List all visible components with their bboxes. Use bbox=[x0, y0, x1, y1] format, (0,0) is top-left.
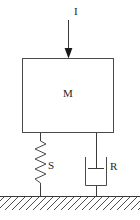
ground-hatch-lines bbox=[0, 197, 140, 210]
damper-group bbox=[86, 133, 107, 196]
diagram-canvas bbox=[0, 0, 140, 220]
mass-spring-damper-diagram: I M S R bbox=[0, 0, 140, 220]
spring-group bbox=[35, 133, 46, 196]
mass-label: M bbox=[63, 88, 73, 99]
hatched-ground-icon bbox=[0, 197, 140, 211]
force-label: I bbox=[74, 6, 78, 17]
spring-label: S bbox=[48, 160, 54, 171]
down-arrow-icon bbox=[65, 48, 73, 59]
zigzag-spring-icon bbox=[35, 141, 46, 186]
damper-label: R bbox=[110, 161, 117, 172]
force-arrow-group bbox=[65, 20, 73, 59]
